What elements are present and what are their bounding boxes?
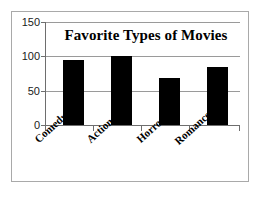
- chart-figure: 150 100 50 0 Favorite Types of Movies Co…: [0, 0, 266, 197]
- x-axis-label-comedy: Comedy: [32, 110, 69, 145]
- x-axis-label-horror: Horror: [134, 113, 167, 145]
- x-axis-label-romance: Romance: [172, 109, 213, 147]
- x-axis-label-action: Action: [84, 115, 115, 145]
- x-axis-labels: Comedy Action Horror Romance: [0, 0, 266, 197]
